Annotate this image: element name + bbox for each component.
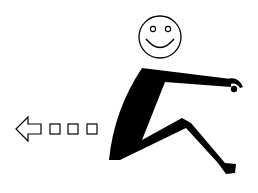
trail-square-icon xyxy=(68,124,78,134)
motion-trail xyxy=(50,124,97,134)
trail-square-icon xyxy=(50,124,60,134)
body-silhouette xyxy=(109,68,243,174)
trail-square-icon xyxy=(87,124,97,134)
arrow-left-icon xyxy=(16,117,41,141)
rowing-figure-diagram xyxy=(0,0,258,193)
smiley-head-icon xyxy=(139,16,181,58)
